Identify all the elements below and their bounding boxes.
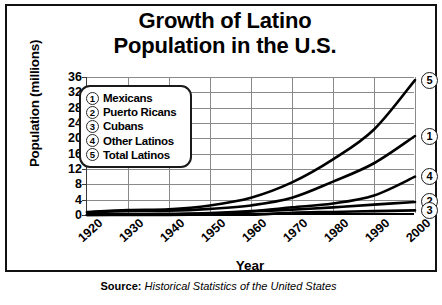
chart-title: Growth of Latino Population in the U.S. bbox=[30, 8, 420, 58]
y-tick-label: 12 bbox=[56, 162, 82, 176]
end-marker-mexicans: 1 bbox=[421, 128, 438, 145]
legend-item-label: Other Latinos bbox=[103, 135, 174, 147]
end-marker-total-latinos: 5 bbox=[421, 72, 438, 89]
source-note: Source: Historical Statistics of the Uni… bbox=[0, 280, 437, 292]
source-label: Source: bbox=[101, 280, 142, 292]
legend-key-icon: 5 bbox=[86, 148, 99, 161]
legend-item: 4Other Latinos bbox=[86, 134, 185, 148]
legend-key-icon: 1 bbox=[86, 92, 99, 105]
legend-item-label: Puerto Ricans bbox=[103, 106, 176, 118]
legend-item: 3Cubans bbox=[86, 119, 185, 133]
legend-item: 5Total Latinos bbox=[86, 148, 185, 162]
y-tick-label: 4 bbox=[56, 193, 82, 207]
legend-item-label: Cubans bbox=[103, 120, 143, 132]
chart-title-line2: Population in the U.S. bbox=[30, 33, 420, 58]
gridline-vertical bbox=[415, 77, 416, 213]
x-axis-title: Year bbox=[86, 258, 414, 273]
legend-item-label: Mexicans bbox=[103, 92, 152, 104]
chart-title-line1: Growth of Latino bbox=[139, 8, 312, 33]
end-marker-cubans: 3 bbox=[421, 202, 438, 219]
chart-figure: Growth of Latino Population in the U.S. … bbox=[0, 0, 442, 305]
y-tick-label: 36 bbox=[56, 70, 82, 84]
legend-item: 2Puerto Ricans bbox=[86, 105, 185, 119]
legend-item: 1Mexicans bbox=[86, 91, 185, 105]
source-text: Historical Statistics of the United Stat… bbox=[145, 280, 337, 292]
legend-key-icon: 3 bbox=[86, 120, 99, 133]
y-tick-label: 0 bbox=[56, 208, 82, 222]
legend-item-label: Total Latinos bbox=[103, 149, 170, 161]
legend: 1Mexicans2Puerto Ricans3Cubans4Other Lat… bbox=[79, 85, 192, 168]
legend-key-icon: 2 bbox=[86, 106, 99, 119]
y-tick-label: 8 bbox=[56, 177, 82, 191]
y-axis-title: Population (millions) bbox=[27, 24, 42, 184]
legend-key-icon: 4 bbox=[86, 134, 99, 147]
